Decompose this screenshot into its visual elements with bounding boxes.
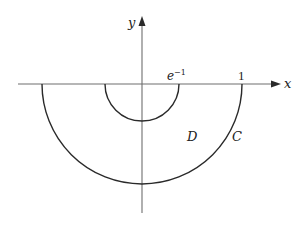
x-axis-label: x	[284, 76, 292, 91]
half-annulus-diagram: x y e−1 1 D C	[0, 0, 305, 227]
inner-radius-exponent: −1	[174, 68, 186, 77]
region-label-D: D	[186, 129, 198, 144]
curve-label-C: C	[232, 129, 242, 144]
inner-radius-label: e−1	[167, 68, 186, 83]
x-axis-arrowhead-icon	[271, 81, 281, 88]
outer-radius-label: 1	[238, 68, 245, 83]
inner-radius-base: e	[167, 69, 174, 83]
y-axis-arrowhead-icon	[139, 16, 146, 26]
y-axis-label: y	[127, 15, 136, 30]
